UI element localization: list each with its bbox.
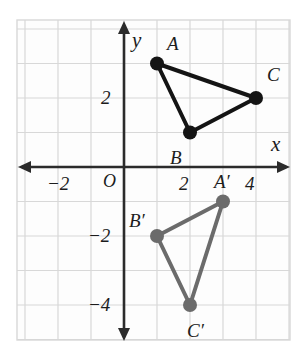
point-label: A [167,34,179,53]
point-label: B′ [129,211,145,230]
point-label: C [267,65,280,84]
y-tick-label: 2 [101,88,111,107]
x-tick-label: 2 [179,174,189,193]
point-label: B [170,148,182,167]
x-tick-label: −2 [47,174,69,193]
point-label: A′ [214,172,230,191]
x-axis-label: x [271,134,280,155]
coordinate-plane-figure: y x O −2242−2−4 ABCA′B′C′ [0,0,307,359]
point-label: C′ [187,321,204,340]
y-axis-label: y [132,30,141,51]
x-tick-label: 4 [245,174,255,193]
origin-label: O [103,172,116,190]
y-tick-label: −4 [88,295,110,314]
y-tick-label: −2 [88,226,110,245]
